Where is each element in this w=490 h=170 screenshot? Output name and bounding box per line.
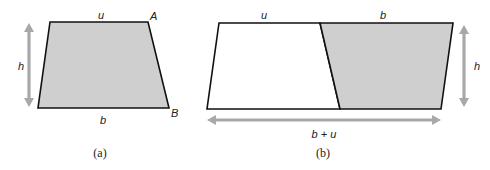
height-arrow-b [459,25,469,107]
caption-a: (a) [93,146,106,160]
trapezoid-b-right [320,23,453,109]
diagram-canvas: u A h b B (a) u b h b + u (b) [0,0,490,170]
label-top-u: u [261,9,267,21]
label-height-h: h [18,60,24,72]
caption-b: (b) [316,146,330,160]
height-arrow-a [24,23,34,107]
label-bottom-b-plus-u: b + u [312,128,337,140]
label-bottom-b: b [100,114,106,126]
label-vertex-a: A [149,10,157,22]
label-top-b: b [380,9,386,21]
trapezoid-b-left [207,23,340,109]
arrow-head-up [24,23,34,32]
label-top-u: u [98,9,104,21]
figure-b: u b h b + u (b) [207,9,480,160]
trapezoid-a [38,22,169,108]
arrow-head-up [459,25,469,34]
label-vertex-b: B [171,107,178,119]
label-height-h: h [474,60,480,72]
arrow-head-down [459,98,469,107]
arrow-head-left [207,115,216,125]
width-arrow-b [207,115,441,125]
arrow-head-right [432,115,441,125]
arrow-head-down [24,98,34,107]
figure-a: u A h b B (a) [18,9,178,160]
